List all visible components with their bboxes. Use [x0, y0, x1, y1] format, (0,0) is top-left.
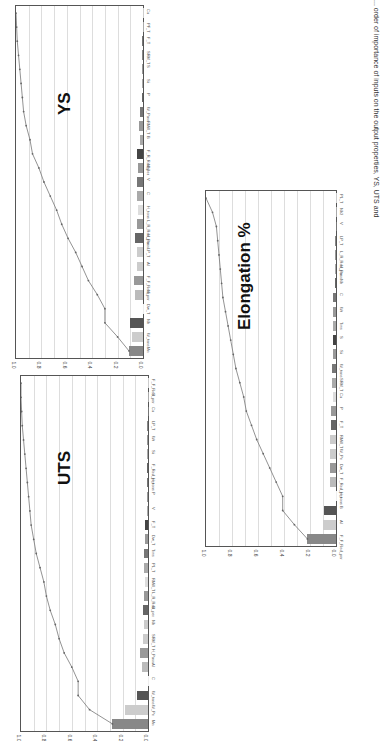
tick-label: 0.2	[113, 362, 119, 369]
plot-area: F_F_Red_perAlBH_tonsF_Red_perDw_TW_PeRMi…	[205, 190, 337, 547]
category-label: L_R_Red_per	[146, 220, 151, 245]
category-label: W_tons	[339, 364, 344, 378]
tick-label: 0.4	[88, 362, 94, 369]
tick-label: 0.0	[143, 735, 149, 741]
category-label: L_R_Red_per	[339, 251, 344, 276]
category-label: SRM_T	[151, 634, 156, 648]
category-label: Dw_T	[146, 304, 151, 314]
category-label: LP_T	[151, 421, 156, 431]
category-label: V	[339, 222, 344, 225]
category-label: F_T	[146, 37, 151, 44]
category-label: Al	[339, 520, 344, 524]
plot-area: MnW_PeW_tonsCAlH_PassSRM_TNbBL_R_Red_per…	[20, 375, 149, 732]
tick-label: 1.0	[16, 735, 22, 741]
chart-title: UTS	[55, 451, 75, 485]
category-label: Cu	[339, 393, 344, 398]
category-label: Si	[146, 79, 151, 83]
tick-label: 0.4	[93, 735, 99, 741]
category-label: LP_T	[146, 248, 151, 258]
chart-title: YS	[55, 92, 75, 115]
category-label: Si	[151, 450, 156, 454]
category-label: LP_T	[339, 236, 344, 246]
category-label: Mn	[151, 720, 156, 726]
category-label: Tms	[151, 549, 156, 557]
plot-area: MnW_tonsNbDw_TNiF_F_Red_perAlLP_TH_PassL…	[15, 5, 144, 359]
category-label: H_tons	[146, 206, 151, 219]
category-label: H_Pass	[151, 649, 156, 663]
category-label: F_Red_per	[339, 478, 344, 498]
category-label: Dw_T	[339, 464, 344, 474]
category-label: Nb	[151, 620, 156, 625]
category-label: Al	[146, 262, 151, 266]
category-label: F_T	[339, 421, 344, 428]
category-label: Tms	[339, 322, 344, 330]
category-label: F_R_Red_per	[146, 150, 151, 175]
category-label: V	[146, 178, 151, 181]
category-label: P	[146, 93, 151, 96]
tick-label: 0.8	[227, 550, 233, 557]
category-label: F_Red_per	[151, 464, 156, 484]
category-label: W_tons	[146, 333, 151, 347]
category-label: C	[339, 293, 344, 296]
category-label: F_F_Red_per	[339, 535, 344, 560]
tick-label: 0.2	[118, 735, 124, 741]
cumulative-line	[21, 376, 148, 731]
category-label: W_tons	[151, 691, 156, 705]
tick-label: 0.0	[138, 362, 144, 369]
category-label: RMill_T	[146, 121, 151, 135]
cumulative-line	[16, 6, 143, 358]
tick-label: 1.0	[201, 550, 207, 557]
chart-title: Elongation %	[235, 222, 255, 330]
category-label: Dw_T	[151, 535, 156, 545]
tick-label: 0.6	[67, 735, 73, 741]
category-label: Cu	[146, 9, 151, 14]
category-label: Mn	[146, 347, 151, 353]
category-label: S	[339, 336, 344, 339]
category-label: Nb	[339, 279, 344, 284]
category-label: Cu	[151, 407, 156, 412]
category-label: F_T	[151, 521, 156, 528]
category-label: Al	[151, 663, 156, 667]
category-label: Wt	[151, 436, 156, 441]
category-label: Wt	[339, 307, 344, 312]
tick-label: 0.8	[37, 362, 43, 369]
category-label: B	[339, 506, 344, 509]
category-label: B	[146, 136, 151, 139]
category-label: W_Pe	[339, 449, 344, 460]
category-label: Nb2	[339, 208, 344, 215]
category-label: RMill_T	[151, 578, 156, 592]
tick-label: 0.0	[331, 550, 337, 557]
category-label: Nb	[146, 319, 151, 324]
category-label: PL_T	[339, 194, 344, 204]
category-label: SRM_T	[146, 51, 151, 65]
category-label: SRM_T	[339, 378, 344, 392]
category-label: S	[146, 65, 151, 68]
tick-label: 0.8	[42, 735, 48, 741]
category-label: W_Pe	[151, 705, 156, 716]
tick-label: 0.4	[279, 550, 285, 557]
tick-label: 1.0	[11, 362, 17, 369]
tick-label: 0.6	[62, 362, 68, 369]
category-label: L_R_Red_per	[151, 592, 156, 617]
category-label: C	[146, 192, 151, 195]
category-label: V	[151, 507, 156, 510]
tick-label: 0.6	[253, 550, 259, 557]
category-label: P	[151, 492, 156, 495]
category-label: F_F_Red_per	[146, 276, 151, 301]
category-label: Si	[339, 350, 344, 354]
category-label: C	[151, 677, 156, 680]
category-label: PF_T	[146, 23, 151, 33]
category-label: F_F_Red_per	[151, 379, 156, 404]
category-label: P	[339, 407, 344, 410]
category-label: RMill_T	[339, 435, 344, 449]
category-label: PL_T	[151, 563, 156, 573]
category-label: W_Pass	[146, 107, 151, 122]
tick-label: 0.2	[305, 550, 311, 557]
cumulative-line	[206, 191, 336, 546]
